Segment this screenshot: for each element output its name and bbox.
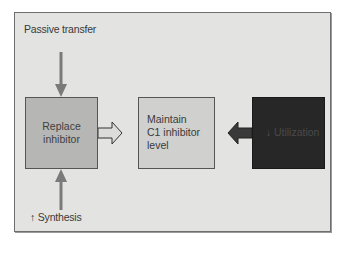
up-arrow-icon: ↑ bbox=[30, 211, 35, 223]
synthesis-label: Synthesis bbox=[38, 211, 82, 223]
replace-line-2: inhibitor bbox=[26, 133, 97, 146]
replace-inhibitor-box: Replace inhibitor bbox=[25, 97, 98, 169]
replace-line-1: Replace bbox=[26, 120, 97, 133]
utilization-box: ↓ Utilization bbox=[252, 97, 325, 169]
utilization-label: Utilization bbox=[274, 126, 320, 138]
synthesis-label-group: ↑ Synthesis bbox=[30, 211, 82, 223]
down-arrow-icon: ↓ bbox=[266, 127, 271, 138]
maintain-line-3: level bbox=[147, 139, 200, 152]
replace-inhibitor-text: Replace inhibitor bbox=[26, 120, 97, 146]
maintain-line-2: C1 inhibitor bbox=[147, 126, 200, 139]
down-arrow-icon bbox=[55, 52, 67, 97]
maintain-level-box: Maintain C1 inhibitor level bbox=[138, 97, 215, 169]
right-block-arrow-icon bbox=[98, 122, 122, 144]
maintain-level-text: Maintain C1 inhibitor level bbox=[147, 113, 200, 152]
left-block-arrow-icon bbox=[228, 122, 252, 144]
maintain-line-1: Maintain bbox=[147, 113, 200, 126]
up-arrow-icon bbox=[55, 169, 67, 210]
utilization-text: ↓ Utilization bbox=[266, 126, 319, 139]
